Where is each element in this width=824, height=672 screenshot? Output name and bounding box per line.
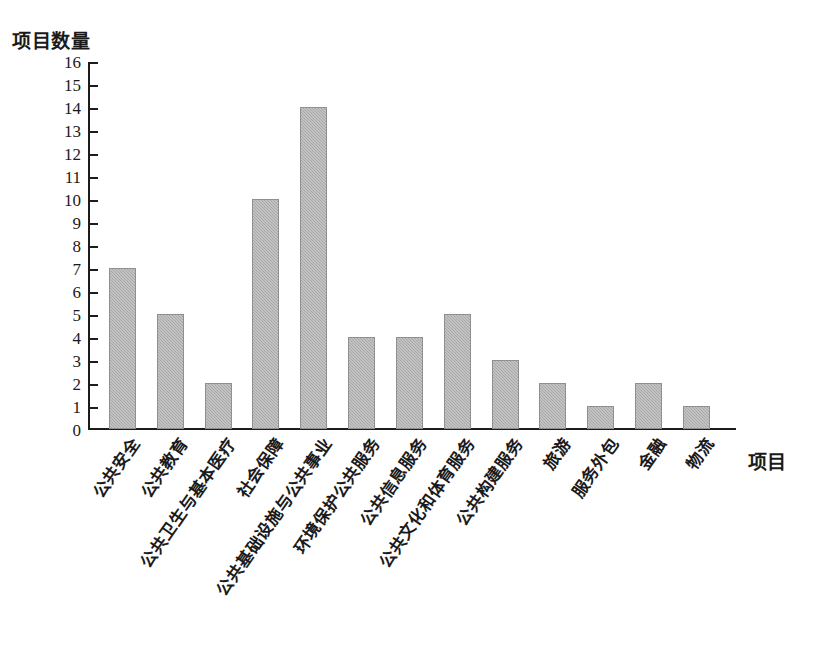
bar xyxy=(539,383,566,429)
bar xyxy=(348,337,375,429)
y-tick-label: 7 xyxy=(73,261,82,278)
bar xyxy=(492,360,519,429)
bar xyxy=(444,314,471,429)
y-tick-label: 2 xyxy=(73,376,82,393)
y-tick-mark xyxy=(90,108,98,110)
y-tick-mark xyxy=(90,315,98,317)
x-axis-label: 服务外包 xyxy=(570,436,623,501)
bar xyxy=(300,107,327,429)
x-axis-label: 物流 xyxy=(685,436,718,473)
bar xyxy=(205,383,232,429)
plot-area: 012345678910111213141516 xyxy=(88,62,736,430)
x-axis-title: 项目 xyxy=(748,447,786,474)
bar xyxy=(252,199,279,429)
y-tick-mark xyxy=(90,269,98,271)
y-tick-label: 9 xyxy=(73,215,82,232)
y-tick-mark xyxy=(90,85,98,87)
y-tick-label: 14 xyxy=(64,100,81,117)
y-tick-label: 11 xyxy=(65,169,81,186)
y-tick-mark xyxy=(90,338,98,340)
y-tick-mark xyxy=(90,131,98,133)
y-tick-mark xyxy=(90,384,98,386)
bar xyxy=(396,337,423,429)
bar-chart: 项目数量 012345678910111213141516 公共安全公共教育公共… xyxy=(0,0,824,672)
bar xyxy=(587,406,614,429)
x-axis-label: 公共卫生与基本医疗 xyxy=(138,436,239,571)
y-tick-label: 1 xyxy=(73,399,82,416)
y-tick-label: 12 xyxy=(64,146,81,163)
y-tick-label: 6 xyxy=(73,284,82,301)
x-axis-label: 金融 xyxy=(637,436,670,473)
y-tick-label: 15 xyxy=(64,77,81,94)
x-axis-label: 旅游 xyxy=(541,436,574,473)
y-tick-mark xyxy=(90,62,98,64)
x-axis-label: 公共安全 xyxy=(91,436,144,501)
y-tick-label: 16 xyxy=(64,54,81,71)
bar xyxy=(635,383,662,429)
y-tick-label: 3 xyxy=(73,353,82,370)
y-tick-mark xyxy=(90,361,98,363)
bar xyxy=(109,268,136,429)
y-tick-mark xyxy=(90,407,98,409)
y-tick-label: 0 xyxy=(73,422,82,439)
y-tick-mark xyxy=(90,246,98,248)
y-tick-label: 4 xyxy=(73,330,82,347)
y-tick-mark xyxy=(90,154,98,156)
y-tick-label: 8 xyxy=(73,238,82,255)
y-tick-mark xyxy=(90,292,98,294)
bar xyxy=(157,314,184,429)
y-tick-label: 10 xyxy=(64,192,81,209)
bar xyxy=(683,406,710,429)
y-tick-mark xyxy=(90,223,98,225)
y-axis-title: 项目数量 xyxy=(12,26,90,53)
y-tick-mark xyxy=(90,177,98,179)
y-tick-mark xyxy=(90,200,98,202)
y-tick-label: 5 xyxy=(73,307,82,324)
y-tick-label: 13 xyxy=(64,123,81,140)
